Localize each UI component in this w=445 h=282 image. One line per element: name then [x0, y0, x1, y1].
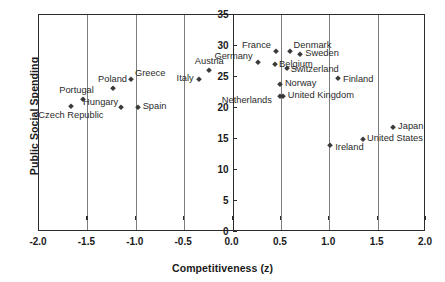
- data-point-label: Spain: [143, 102, 167, 111]
- x-axis-tick-label: 0.5: [273, 236, 287, 247]
- y-axis-tick-label: 5: [223, 195, 229, 206]
- gridline-vertical: [87, 15, 88, 230]
- y-axis-tick: [233, 45, 237, 46]
- data-point: [328, 143, 333, 148]
- data-point-label: Sweden: [305, 49, 339, 58]
- data-point: [110, 86, 115, 91]
- data-point: [255, 60, 260, 65]
- data-point: [287, 48, 292, 53]
- y-axis-tick: [233, 200, 237, 201]
- gridline-vertical: [136, 15, 137, 230]
- data-point-label: Greece: [135, 70, 166, 79]
- data-point-label: Poland: [98, 75, 127, 84]
- y-axis-tick: [233, 138, 237, 139]
- x-axis-tick: [86, 216, 87, 220]
- plot-area: Czech RepublicPortugalHungaryPolandGreec…: [38, 14, 425, 231]
- y-axis-tick: [233, 76, 237, 77]
- x-axis-tick-label: -0.5: [175, 236, 192, 247]
- y-axis-tick-label: 0: [223, 226, 229, 237]
- data-point: [119, 104, 124, 109]
- y-axis-tick: [233, 107, 237, 108]
- data-point: [298, 52, 303, 57]
- data-point-label: Switzerland: [291, 66, 339, 75]
- x-axis-tick-label: 2.0: [418, 236, 432, 247]
- y-axis-tick-label: 20: [217, 102, 228, 113]
- data-point: [391, 124, 396, 129]
- x-axis-tick: [280, 216, 281, 220]
- x-axis-tick: [135, 216, 136, 220]
- x-axis-tick-label: -1.0: [126, 236, 143, 247]
- gridline-vertical: [281, 15, 282, 230]
- x-axis-tick: [377, 216, 378, 220]
- data-point: [207, 68, 212, 73]
- gridline-vertical: [378, 15, 379, 230]
- x-axis-title: Competitiveness (z): [0, 262, 445, 274]
- x-axis-tick-label: 0.0: [225, 236, 239, 247]
- y-axis-tick-label: 35: [217, 9, 228, 20]
- data-point-label: Norway: [285, 79, 317, 88]
- data-point-label: Hungary: [83, 98, 118, 107]
- x-axis-tick: [183, 216, 184, 220]
- data-point-label: United States: [367, 134, 423, 143]
- x-axis-tick-label: 1.0: [321, 236, 335, 247]
- data-point-label: Italy: [177, 75, 194, 84]
- data-point: [284, 66, 289, 71]
- data-point-label: Germany: [214, 52, 252, 61]
- y-axis-tick-label: 15: [217, 133, 228, 144]
- y-axis-tick-label: 30: [217, 40, 228, 51]
- data-point: [335, 76, 340, 81]
- data-point-label: France: [242, 41, 271, 50]
- data-point: [273, 61, 278, 66]
- x-axis-tick: [328, 216, 329, 220]
- data-point-label: Czech Republic: [38, 111, 103, 120]
- y-axis-tick-label: 25: [217, 71, 228, 82]
- data-point-label: Ireland: [335, 144, 363, 153]
- data-point: [196, 77, 201, 82]
- gridline-vertical: [184, 15, 185, 230]
- scatter-chart-figure: Public Social Spending Czech RepublicPor…: [0, 0, 445, 282]
- data-point-label: Netherlands: [222, 97, 272, 106]
- y-axis-spine: [233, 15, 234, 230]
- y-axis-tick-label: 10: [217, 164, 228, 175]
- data-point: [361, 136, 366, 141]
- x-axis-tick-label: -1.5: [78, 236, 95, 247]
- x-axis-tick-label: -2.0: [29, 236, 46, 247]
- y-axis-tick: [233, 231, 237, 232]
- data-point-label: Portugal: [59, 85, 94, 94]
- y-axis-tick: [233, 169, 237, 170]
- data-point: [128, 77, 133, 82]
- x-axis-tick: [232, 216, 233, 220]
- data-point: [273, 48, 278, 53]
- x-axis-tick: [38, 216, 39, 220]
- x-axis-tick-label: 1.5: [370, 236, 384, 247]
- data-point: [68, 104, 73, 109]
- x-axis-tick: [425, 216, 426, 220]
- data-point-label: United Kingdom: [288, 92, 354, 101]
- data-point-label: Finland: [343, 76, 374, 85]
- y-axis-tick: [233, 14, 237, 15]
- data-point-label: Japan: [398, 122, 423, 131]
